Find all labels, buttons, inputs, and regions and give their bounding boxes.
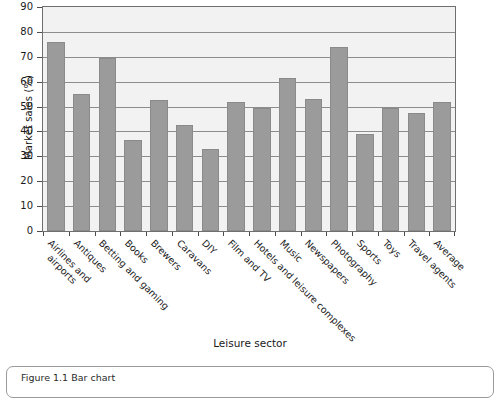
x-tick-mark: [43, 232, 44, 236]
y-tick-label-10: 10: [20, 201, 33, 211]
bar: [305, 99, 323, 231]
x-tick-mark: [429, 232, 430, 236]
x-tick-mark: [198, 232, 199, 236]
caption-box: Figure 1.1 Bar chart: [6, 366, 494, 398]
bar-series: [43, 7, 455, 231]
x-tick-mark: [454, 232, 455, 236]
x-label: DIY: [200, 238, 219, 257]
y-tick-label-30: 30: [20, 151, 33, 161]
bar: [356, 134, 374, 231]
y-tick-label-50: 50: [20, 102, 33, 112]
bar: [382, 108, 400, 231]
y-tick-label-0: 0: [27, 226, 33, 236]
x-tick-mark: [249, 232, 250, 236]
x-tick-mark: [404, 232, 405, 236]
bar: [433, 102, 451, 231]
bar: [279, 78, 297, 231]
x-tick-mark: [172, 232, 173, 236]
x-tick-mark: [95, 232, 96, 236]
x-label: Toys: [380, 238, 402, 260]
bar: [150, 100, 168, 231]
y-tick-label-60: 60: [20, 77, 33, 87]
bar: [47, 42, 65, 231]
x-tick-mark: [146, 232, 147, 236]
x-tick-mark: [223, 232, 224, 236]
y-tick-label-20: 20: [20, 176, 33, 186]
x-tick-mark: [378, 232, 379, 236]
bar: [253, 108, 271, 231]
bar: [227, 102, 245, 231]
y-tick-label-80: 80: [20, 27, 33, 37]
x-tick-mark: [275, 232, 276, 236]
bar: [124, 140, 142, 231]
y-tick-label-40: 40: [20, 126, 33, 136]
bar: [73, 94, 91, 231]
y-tick-label-70: 70: [20, 52, 33, 62]
x-tick-mark: [69, 232, 70, 236]
x-axis-ticks: [43, 232, 455, 237]
caption-text: Figure 1.1 Bar chart: [21, 372, 115, 383]
bar: [202, 149, 220, 231]
x-tick-mark: [352, 232, 353, 236]
x-axis-title: Leisure sector: [0, 337, 500, 349]
x-axis-category-labels: Airlines andairportsAntiquesBetting and …: [43, 238, 455, 348]
x-tick-mark: [120, 232, 121, 236]
bar: [99, 58, 117, 231]
bar: [176, 125, 194, 231]
x-tick-mark: [301, 232, 302, 236]
y-axis-ticks: 0102030405060708090: [0, 0, 42, 239]
bar: [408, 113, 426, 231]
x-tick-mark: [326, 232, 327, 236]
y-tick-label-90: 90: [20, 2, 33, 12]
bar: [330, 47, 348, 231]
